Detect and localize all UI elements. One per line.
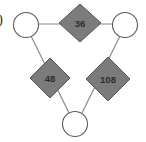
- triangle-graph-diagram: 36 48 108 ): [0, 0, 146, 142]
- node-top-right[interactable]: [113, 13, 138, 38]
- diagram-canvas: 36 48 108 ): [0, 0, 146, 142]
- edge-label-top[interactable]: 36: [59, 4, 101, 42]
- node-bottom[interactable]: [63, 112, 88, 137]
- edge-label-right[interactable]: 108: [86, 57, 130, 101]
- diamond-label-left: 48: [45, 73, 56, 84]
- node-top-left[interactable]: [14, 13, 39, 38]
- diamond-label-top: 36: [75, 18, 86, 29]
- edge-label-left[interactable]: 48: [30, 58, 70, 98]
- diamond-label-right: 108: [100, 74, 116, 85]
- figure-corner-marker: ): [0, 11, 3, 28]
